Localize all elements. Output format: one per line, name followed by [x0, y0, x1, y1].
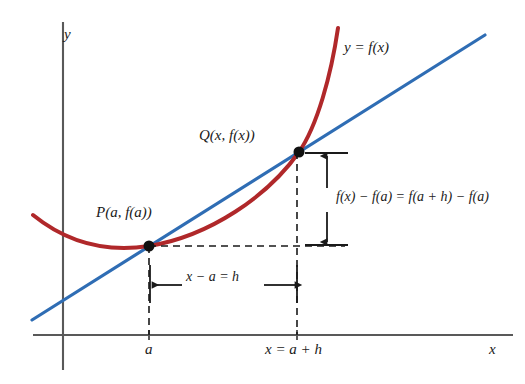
- point-q-label: Q(x, f(x)): [199, 128, 255, 143]
- curve-equation-label: y = f(x): [344, 40, 389, 55]
- secant-line-figure: y x y = f(x) Q(x, f(x)) P(a, f(a)) f(x) …: [0, 0, 525, 384]
- point-p-label: P(a, f(a)): [96, 205, 152, 220]
- secant-line: [32, 35, 485, 320]
- x-axis-label: x: [489, 342, 496, 357]
- point-q-marker: [294, 147, 305, 158]
- point-p-marker: [144, 241, 155, 252]
- function-curve: [33, 28, 338, 248]
- x-tick-label-x: x = a + h: [265, 342, 322, 357]
- run-annotation-label: x − a = h: [186, 270, 239, 284]
- dashed-guides: [149, 152, 345, 335]
- x-tick-label-a: a: [145, 342, 153, 357]
- rise-annotation-label: f(x) − f(a) = f(a + h) − f(a): [336, 190, 489, 204]
- y-axis-label: y: [64, 27, 71, 42]
